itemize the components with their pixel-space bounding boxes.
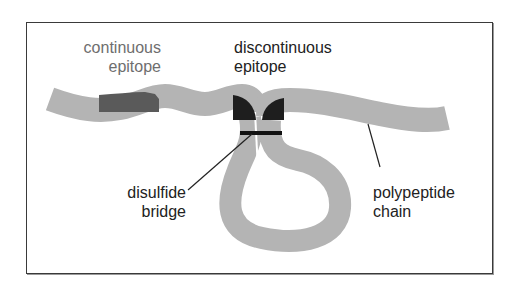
polypeptide-leader-line xyxy=(368,124,380,167)
label-line: epitope xyxy=(234,57,332,76)
continuous-epitope-region xyxy=(99,92,159,112)
label-line: polypeptide xyxy=(373,183,455,202)
label-line: discontinuous xyxy=(234,38,332,57)
discontinuous-epitope-label: discontinuous epitope xyxy=(234,38,332,76)
polypeptide-chain-loop xyxy=(230,118,340,241)
disulfide-bridge-bar xyxy=(240,131,282,135)
label-line: bridge xyxy=(127,202,186,221)
continuous-epitope-label: continuous epitope xyxy=(84,38,161,76)
label-line: chain xyxy=(373,202,455,221)
disulfide-bridge-label: disulfide bridge xyxy=(127,183,186,221)
label-line: continuous xyxy=(84,38,161,57)
label-line: disulfide xyxy=(127,183,186,202)
label-line: epitope xyxy=(84,57,161,76)
polypeptide-chain-label: polypeptide chain xyxy=(373,183,455,221)
polypeptide-chain-right xyxy=(262,100,447,120)
